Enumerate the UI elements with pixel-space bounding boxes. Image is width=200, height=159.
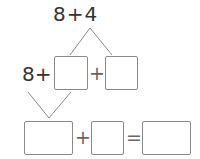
row3-answer-box-2[interactable] [91, 121, 124, 155]
row3-plus-sign: + [75, 129, 91, 146]
top-split-lines [70, 28, 112, 55]
row2-plus-sign: + [89, 65, 105, 82]
bottom-merge-lines [28, 92, 71, 118]
row3-equals-sign: = [126, 129, 142, 146]
row3-answer-box-3[interactable] [142, 121, 191, 155]
row2-answer-box-1[interactable] [54, 56, 88, 90]
row3-answer-box-1[interactable] [24, 121, 73, 155]
row2-prefix: 8+ [22, 65, 51, 84]
row2-answer-box-2[interactable] [105, 56, 138, 90]
